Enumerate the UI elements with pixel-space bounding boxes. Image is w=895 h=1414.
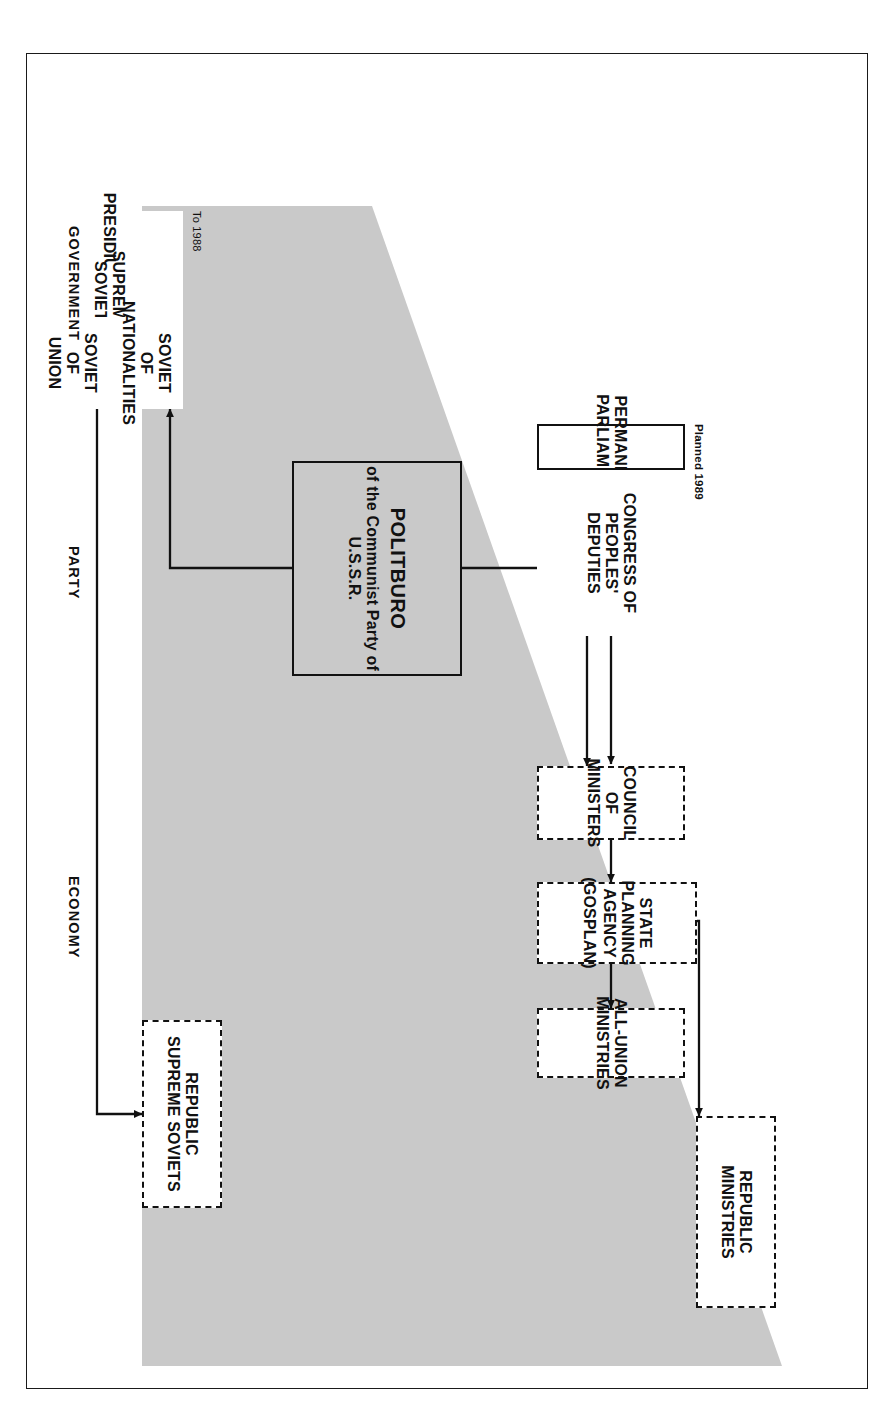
box-republic-ministries[interactable]: REPUBLIC MINISTRIES <box>696 1116 776 1308</box>
diagram-canvas: POLITBURO of the Communist Party of U.S.… <box>52 76 842 1366</box>
column-label-economy: ECONOMY <box>66 876 82 959</box>
label-to-1988: To 1988 <box>191 211 203 252</box>
republic-supreme-soviets-label-1: REPUBLIC <box>182 1036 200 1192</box>
box-politburo[interactable]: POLITBURO of the Communist Party of U.S.… <box>292 461 462 676</box>
box-all-union-ministries[interactable]: ALL-UNION MINISTRIES <box>537 1008 685 1078</box>
diagram-frame: POLITBURO of the Communist Party of U.S.… <box>26 53 868 1389</box>
diagram-page: POLITBURO of the Communist Party of U.S.… <box>0 0 895 1414</box>
congress-label-2: PEOPLES' DEPUTIES <box>584 470 620 636</box>
wire-politburo-to-supreme-soviet <box>170 409 292 568</box>
box-soviet-of-nationalities[interactable]: SOVIET OF NATIONALITIES <box>109 317 183 409</box>
soviet-of-union-label-2: OF <box>63 333 81 393</box>
box-state-planning-agency[interactable]: STATE PLANNING AGENCY (GOSPLAN) <box>537 882 697 964</box>
congress-label-1: CONGRESS OF <box>620 470 638 636</box>
wire-soviet-union-to-republic-soviets <box>97 328 142 1114</box>
politburo-title: POLITBURO <box>386 463 408 674</box>
republic-ministries-label-1: REPUBLIC <box>736 1165 754 1259</box>
council-of-ministers-label: COUNCIL OF MINISTERS <box>584 759 638 848</box>
box-republic-supreme-soviets[interactable]: REPUBLIC SUPREME SOVIETS <box>142 1020 222 1208</box>
box-council-of-ministers[interactable]: COUNCIL OF MINISTERS <box>537 766 685 840</box>
soviet-of-union-label-3: UNION <box>45 333 63 393</box>
soviet-of-union-label-1: SOVIET <box>81 333 99 393</box>
all-union-ministries-label: ALL-UNION MINISTRIES <box>593 996 629 1090</box>
republic-supreme-soviets-label-2: SUPREME SOVIETS <box>164 1036 182 1192</box>
soviet-of-nationalities-label-1: SOVIET <box>155 301 173 425</box>
box-permanent-parliament[interactable]: PERMANENT PARLIAMENT <box>537 424 685 470</box>
wedge-polygon <box>142 206 782 1366</box>
state-planning-agency-label: STATE PLANNING AGENCY <box>601 877 655 969</box>
state-planning-agency-sublabel: (GOSPLAN) <box>580 877 598 969</box>
column-label-party: PARTY <box>66 546 82 600</box>
column-label-government: GOVERNMENT <box>66 226 82 341</box>
soviet-of-nationalities-label-3: NATIONALITIES <box>119 301 137 425</box>
label-planned-1989: Planned 1989 <box>693 424 705 500</box>
box-congress-of-peoples-deputies[interactable]: CONGRESS OF PEOPLES' DEPUTIES <box>537 470 685 636</box>
politburo-subtitle: of the Communist Party of U.S.S.R. <box>345 463 381 674</box>
soviet-of-nationalities-label-2: OF <box>137 301 155 425</box>
republic-ministries-label-2: MINISTRIES <box>718 1165 736 1259</box>
